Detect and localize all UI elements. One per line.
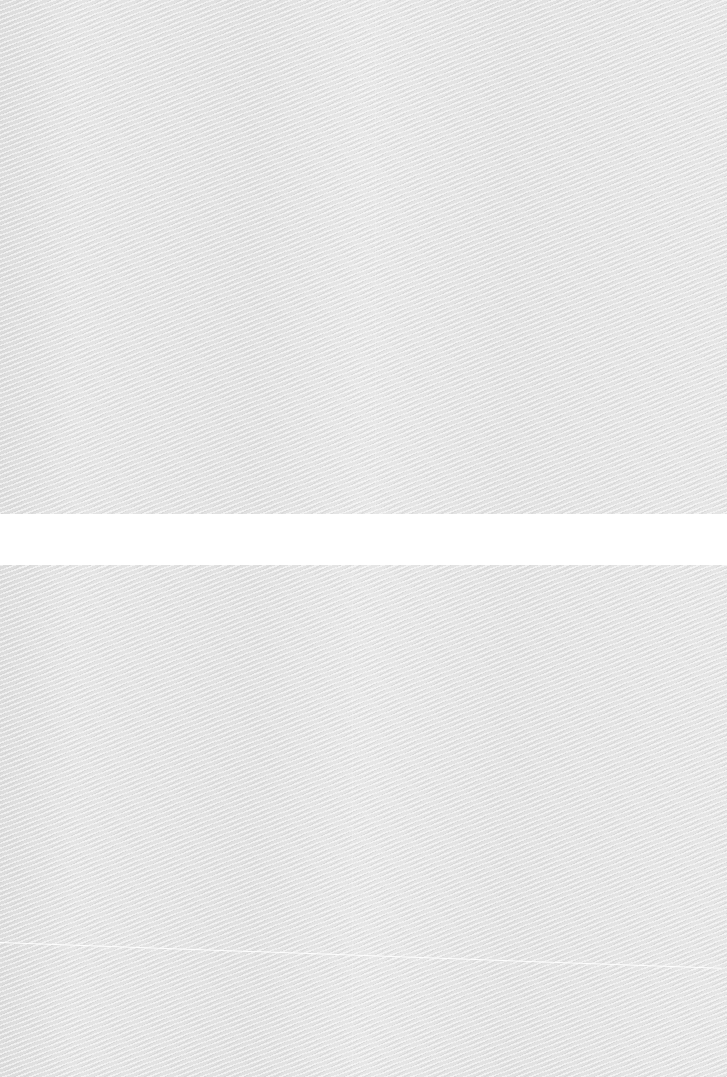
textured-panel-bottom	[0, 565, 727, 1077]
fold-line	[352, 565, 353, 1077]
white-gap-band	[0, 514, 727, 565]
textured-panel-top	[0, 0, 727, 514]
fold-line	[375, 0, 376, 514]
